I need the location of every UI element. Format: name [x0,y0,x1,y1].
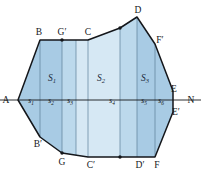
label-Bprime: B′ [34,139,42,149]
label-Eprime: E′ [172,107,180,117]
label-G: G [59,157,66,167]
label-B: B [36,27,42,37]
label-C: C [85,27,91,37]
segment-s3-sub: 3 [69,100,73,106]
point-top-s4 [118,26,121,29]
point-Gprime [60,38,63,41]
label-F: F [154,160,159,170]
label-Dprime: D′ [136,160,145,170]
label-N: N [188,95,195,105]
geometry-figure: A B B′ C C′ D D′ E E′ F F′ G G′ N S1 S2 … [0,0,201,178]
region-S3-sub: 3 [145,77,150,84]
shaded-strips [18,17,173,157]
strip-left-wedge [18,40,40,137]
label-Fprime: F′ [156,35,163,45]
label-E: E [171,84,177,94]
point-bot-s4 [118,155,121,158]
label-A: A [3,95,10,105]
region-S1-sub: 1 [53,77,56,84]
strip-s3-a [137,17,155,157]
segment-s5-sub: 5 [144,100,147,106]
point-G [60,151,63,154]
strip-s2-c [120,17,137,157]
figure-canvas: A B B′ C C′ D D′ E E′ F F′ G G′ N S1 S2 … [0,0,201,178]
label-Gprime: G′ [58,27,67,37]
segment-s2-sub: 2 [51,100,54,106]
label-Cprime: C′ [87,160,95,170]
segment-s4-sub: 4 [112,100,115,106]
strip-s2-b [88,28,120,157]
strip-s2-a [76,40,88,157]
label-D: D [135,5,142,15]
segment-s6-sub: 6 [161,100,164,106]
segment-s1-sub: 1 [31,100,34,106]
